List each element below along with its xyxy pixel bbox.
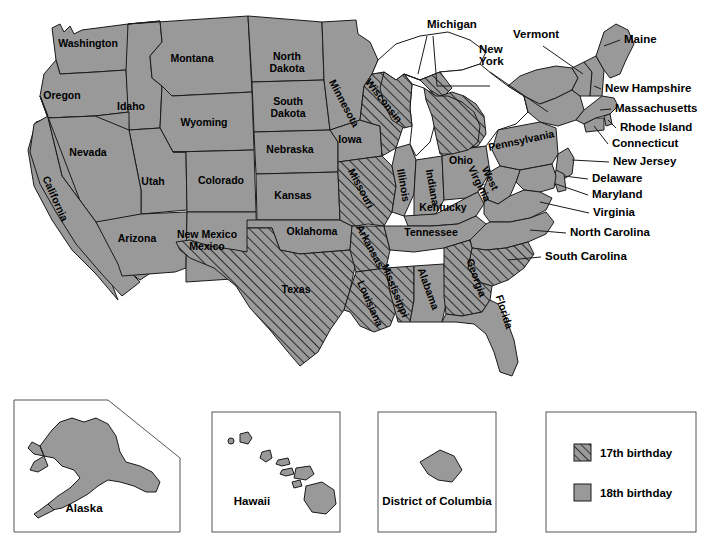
state-label-tennessee: Tennessee: [404, 226, 458, 238]
state-label-virginia: Virginia: [593, 206, 636, 218]
state-label-new-york: NewYork: [479, 43, 504, 67]
state-label-south-dakota: SouthDakota: [270, 95, 305, 119]
state-label-montana: Montana: [170, 52, 213, 64]
state-label-new-jersey: New Jersey: [613, 155, 677, 167]
state-label-oklahoma: Oklahoma: [287, 225, 338, 237]
inset-label-alaska: Alaska: [65, 502, 103, 514]
state-label-oregon: Oregon: [43, 89, 80, 101]
hawaii-box: [212, 412, 340, 532]
state-label-kentucky: Kentucky: [419, 201, 466, 213]
state-label-iowa: Iowa: [338, 133, 361, 145]
state-label-michigan: Michigan: [427, 18, 477, 30]
state-label-nevada: Nevada: [69, 146, 107, 158]
legend-swatch-17: [574, 444, 591, 461]
inset-label-hawaii: Hawaii: [234, 495, 270, 507]
legend-label-18: 18th birthday: [600, 487, 673, 499]
state-label-rhode-island: Rhode Island: [620, 121, 692, 133]
state-label-ohio: Ohio: [449, 154, 473, 166]
us-map-figure: WashingtonOregonMontanaIdahoWyomingNevad…: [0, 0, 710, 543]
state-label-wyoming: Wyoming: [180, 116, 227, 128]
legend-label-17: 17th birthday: [600, 447, 673, 459]
state-label-maine: Maine: [624, 33, 657, 45]
state-washington[interactable]: [52, 24, 131, 74]
legend-swatch-18: [574, 484, 591, 501]
legend-box: [546, 412, 696, 532]
state-label-utah: Utah: [141, 175, 164, 187]
state-label-texas: Texas: [282, 283, 311, 295]
state-label-washington: Washington: [58, 37, 118, 49]
leader-delaware: [564, 176, 588, 179]
state-label-arizona: Arizona: [118, 232, 157, 244]
state-label-kansas: Kansas: [274, 189, 312, 201]
bottom-panels: [14, 400, 696, 532]
leader-new-jersey: [572, 160, 609, 162]
state-label-south-carolina: South Carolina: [545, 250, 627, 262]
inset-label-dc: District of Columbia: [382, 495, 492, 507]
state-label-vermont: Vermont: [513, 28, 559, 40]
state-label-idaho: Idaho: [117, 100, 145, 112]
state-label-maryland: Maryland: [592, 188, 643, 200]
state-label-nebraska: Nebraska: [266, 143, 313, 155]
state-label-north-dakota: NorthDakota: [269, 50, 304, 74]
state-label-colorado: Colorado: [198, 174, 244, 186]
state-label-connecticut: Connecticut: [612, 137, 679, 149]
us-map-canvas: WashingtonOregonMontanaIdahoWyomingNevad…: [0, 0, 710, 543]
state-label-new-hampshire: New Hampshire: [605, 82, 691, 94]
state-label-massachusetts: Massachusetts: [615, 102, 697, 114]
state-label-delaware: Delaware: [592, 172, 643, 184]
state-label-north-carolina: North Carolina: [570, 226, 650, 238]
